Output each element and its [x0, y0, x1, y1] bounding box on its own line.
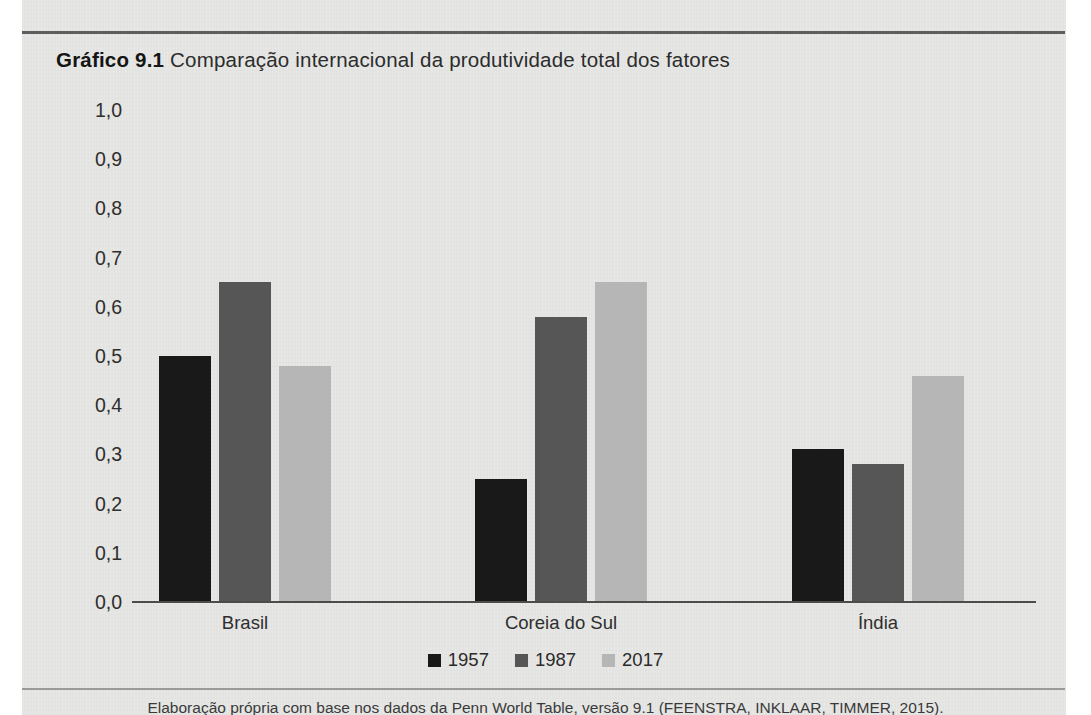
legend-label-2017: 2017 — [622, 651, 663, 670]
bar-índia-1957 — [792, 449, 844, 602]
legend-label-1987: 1987 — [535, 651, 576, 670]
chart-legend: 195719872017 — [0, 651, 1091, 670]
bar-coreia-do-sul-1987 — [535, 317, 587, 602]
legend-label-1957: 1957 — [448, 651, 489, 670]
x-axis-label-brasil: Brasil — [222, 612, 268, 634]
legend-item-2017: 2017 — [602, 651, 663, 670]
legend-item-1957: 1957 — [428, 651, 489, 670]
bar-índia-1987 — [852, 464, 904, 602]
x-axis-label-coreia-do-sul: Coreia do Sul — [505, 612, 617, 634]
bar-series-group — [0, 0, 1091, 602]
bar-brasil-1987 — [219, 282, 271, 602]
legend-item-1987: 1987 — [515, 651, 576, 670]
scanned-page: Gráfico 9.1 Comparação internacional da … — [0, 0, 1091, 715]
legend-swatch-2017 — [602, 654, 615, 667]
legend-swatch-1957 — [428, 654, 441, 667]
bar-brasil-1957 — [159, 356, 211, 602]
bar-brasil-2017 — [279, 366, 331, 602]
legend-swatch-1987 — [515, 654, 528, 667]
bar-índia-2017 — [912, 376, 964, 602]
bar-coreia-do-sul-2017 — [595, 282, 647, 602]
figure-source-caption: Elaboração própria com base nos dados da… — [0, 699, 1091, 715]
x-axis-label-índia: Índia — [858, 612, 898, 634]
chart-plot-area: 1,00,90,80,70,60,50,40,30,20,10,0 Brasil… — [0, 0, 1091, 715]
bar-coreia-do-sul-1957 — [475, 479, 527, 602]
x-axis-baseline — [132, 601, 1036, 603]
